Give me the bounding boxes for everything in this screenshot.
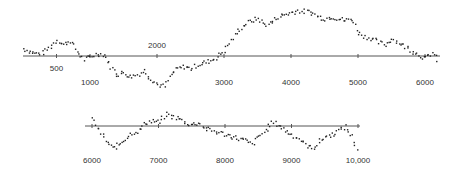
data-point — [272, 22, 273, 23]
data-point — [93, 120, 94, 121]
data-point — [238, 31, 239, 32]
data-point — [140, 128, 141, 129]
data-point — [91, 56, 92, 57]
data-point — [332, 132, 333, 133]
data-point — [352, 134, 353, 135]
tick-label: 500 — [50, 64, 64, 73]
data-point — [220, 53, 221, 54]
data-point — [324, 20, 325, 21]
data-point — [100, 133, 101, 134]
data-point — [198, 66, 199, 67]
data-point — [53, 42, 54, 43]
data-point — [384, 44, 385, 45]
data-point — [66, 44, 67, 45]
data-point — [297, 9, 298, 10]
data-point — [84, 60, 85, 61]
data-point — [316, 145, 317, 146]
data-point — [183, 65, 184, 66]
tick-label: 1000 — [81, 78, 99, 87]
data-point — [111, 144, 112, 145]
data-point — [359, 32, 360, 33]
data-point — [280, 125, 281, 126]
data-point — [146, 124, 147, 125]
data-point — [36, 52, 37, 53]
data-point — [396, 42, 397, 43]
data-point — [125, 140, 126, 141]
data-point — [329, 134, 330, 135]
data-point — [253, 21, 254, 22]
data-point — [228, 134, 229, 135]
data-point — [238, 140, 239, 141]
data-point — [205, 62, 206, 63]
data-point — [134, 134, 135, 135]
data-point — [112, 67, 113, 68]
data-point — [56, 40, 57, 41]
data-point — [116, 73, 117, 74]
data-point — [191, 68, 192, 69]
data-point — [336, 19, 337, 20]
data-point — [170, 76, 171, 77]
data-point — [291, 133, 292, 134]
data-point — [157, 84, 158, 85]
tick-label: 4000 — [282, 78, 300, 87]
data-point — [141, 72, 142, 73]
tick-label: 9000 — [283, 156, 301, 165]
data-point — [79, 56, 80, 57]
data-point — [289, 12, 290, 13]
data-point — [131, 134, 132, 135]
data-point — [51, 48, 52, 49]
data-point — [314, 148, 315, 149]
data-point — [347, 129, 348, 130]
data-point — [275, 121, 276, 122]
data-point — [244, 25, 245, 26]
data-point — [381, 41, 382, 42]
tick-label: 3000 — [215, 78, 233, 87]
data-point — [387, 42, 388, 43]
data-point — [347, 131, 348, 132]
data-point — [75, 49, 76, 50]
data-point — [86, 56, 87, 57]
data-point — [240, 138, 241, 139]
data-point — [116, 143, 117, 144]
data-point — [396, 40, 397, 41]
data-point — [162, 83, 163, 84]
data-point — [293, 137, 294, 138]
data-point — [330, 18, 331, 19]
top-series-points — [23, 8, 437, 87]
data-point — [277, 18, 278, 19]
data-point — [333, 18, 334, 19]
data-point — [413, 51, 414, 52]
data-point — [152, 82, 153, 83]
data-point — [218, 52, 219, 53]
data-point — [47, 49, 48, 50]
data-point — [370, 40, 371, 41]
data-point — [252, 143, 253, 144]
data-point — [350, 19, 351, 20]
data-point — [412, 53, 413, 54]
data-point — [310, 11, 311, 12]
data-point — [48, 47, 49, 48]
data-point — [143, 72, 144, 73]
data-point — [309, 145, 310, 146]
data-point — [259, 135, 260, 136]
data-point — [100, 53, 101, 54]
data-point — [228, 43, 229, 44]
data-point — [103, 56, 104, 57]
tick-label: 10,000 — [346, 156, 371, 165]
data-point — [255, 138, 256, 139]
data-point — [308, 10, 309, 11]
data-point — [250, 20, 251, 21]
data-point — [336, 130, 337, 131]
data-point — [121, 71, 122, 72]
data-point — [436, 55, 437, 56]
data-point — [317, 16, 318, 17]
data-point — [261, 19, 262, 20]
data-point — [399, 43, 400, 44]
tick-label: 7000 — [150, 156, 168, 165]
data-point — [422, 58, 423, 59]
data-point — [280, 16, 281, 17]
data-point — [144, 122, 145, 123]
data-point — [171, 118, 172, 119]
data-point — [345, 124, 346, 125]
data-point — [368, 37, 369, 38]
